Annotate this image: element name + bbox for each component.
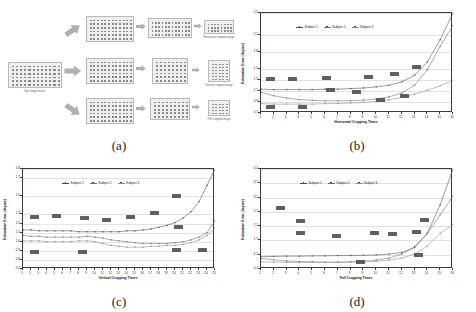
matrix-dot xyxy=(226,76,228,78)
series-marker xyxy=(198,239,199,240)
matrix-dot xyxy=(93,113,95,115)
y-axis-title: Estimation Error (degree) xyxy=(241,199,245,240)
matrix-dot xyxy=(172,76,174,78)
matrix-dot xyxy=(28,84,30,86)
matrix-dot xyxy=(126,34,128,36)
matrix-dot xyxy=(123,31,125,33)
data-value-annotation xyxy=(356,260,365,264)
x-tick-label: 15 xyxy=(130,271,138,275)
matrix-dot xyxy=(174,112,176,114)
matrix-dot xyxy=(108,27,110,29)
series-marker xyxy=(312,255,313,256)
series-marker xyxy=(150,243,151,244)
x-tick-label: 10 xyxy=(371,115,379,119)
matrix-dot xyxy=(130,120,132,122)
matrix-dot xyxy=(58,84,60,86)
series-marker xyxy=(198,237,199,238)
matrix-dot xyxy=(115,34,117,36)
matrix-dot xyxy=(215,70,217,72)
matrix-dot xyxy=(93,65,95,67)
matrix-dot xyxy=(170,105,172,107)
matrix-dot xyxy=(108,65,110,67)
panel-d: 0.71.21.72.22.73.23.74.21234567891011121… xyxy=(238,156,476,312)
matrix-dot xyxy=(126,109,128,111)
series-marker xyxy=(214,227,215,228)
matrix-dot xyxy=(162,102,164,104)
data-value-annotation xyxy=(102,218,111,222)
series-marker xyxy=(190,239,191,240)
matrix-dot xyxy=(37,84,39,86)
matrix-dot xyxy=(104,116,106,118)
y-tick-mark xyxy=(20,195,22,196)
data-value-annotation xyxy=(364,75,373,79)
data-value-annotation xyxy=(326,88,335,92)
x-tick-label: 14 xyxy=(422,271,430,275)
matrix-dot xyxy=(162,30,164,32)
matrix-dot xyxy=(112,27,114,29)
vertical-stage2-matrix xyxy=(152,58,188,84)
matrix-dot xyxy=(108,31,110,33)
matrix-dot xyxy=(49,80,51,82)
matrix-dot xyxy=(168,65,170,67)
matrix-dot xyxy=(172,73,174,75)
x-tick-label: 21 xyxy=(178,271,186,275)
x-tick-label: 16 xyxy=(138,271,146,275)
series-marker xyxy=(166,243,167,244)
series-marker xyxy=(182,241,183,242)
matrix-dot xyxy=(123,20,125,22)
matrix-dot xyxy=(226,73,228,75)
matrix-dot xyxy=(230,30,232,32)
matrix-dot xyxy=(115,120,117,122)
matrix-dot xyxy=(119,80,121,82)
matrix-dot xyxy=(219,110,221,112)
matrix-dot xyxy=(158,30,160,32)
legend-label: Subject 2 xyxy=(98,181,111,185)
y-tick-label: 4.2 xyxy=(246,166,258,170)
matrix-dot xyxy=(20,84,22,86)
matrix-dot xyxy=(101,34,103,36)
matrix-dot xyxy=(93,76,95,78)
matrix-dot xyxy=(123,69,125,71)
series-marker xyxy=(70,237,71,238)
matrix-dot xyxy=(90,76,92,78)
x-tick-label: 2 xyxy=(269,271,277,275)
matrix-dot xyxy=(222,79,224,81)
matrix-dot xyxy=(16,73,18,75)
x-tick-label: 14 xyxy=(422,115,430,119)
matrix-dot xyxy=(101,120,103,122)
matrix-dot xyxy=(176,76,178,78)
y-tick-label: 1.2 xyxy=(8,221,20,225)
x-tick-label: 8 xyxy=(74,271,82,275)
matrix-dot xyxy=(170,112,172,114)
matrix-dot xyxy=(212,76,214,78)
matrix-dot xyxy=(115,23,117,25)
series-marker xyxy=(126,230,127,231)
matrix-dot xyxy=(123,23,125,25)
matrix-dot xyxy=(219,104,221,106)
series-line-3 xyxy=(261,225,453,263)
matrix-dot xyxy=(97,20,99,22)
matrix-dot xyxy=(176,80,178,82)
matrix-dot xyxy=(168,69,170,71)
matrix-dot xyxy=(175,26,177,28)
matrix-dot xyxy=(222,110,224,112)
series-marker xyxy=(427,61,428,62)
series-marker xyxy=(401,254,402,255)
y-tick-label: 1.5 xyxy=(8,193,20,197)
matrix-dot xyxy=(104,23,106,25)
matrix-dot xyxy=(158,102,160,104)
matrix-dot xyxy=(126,113,128,115)
matrix-dot xyxy=(53,84,55,86)
x-tick-label: 19 xyxy=(162,271,170,275)
x-axis-title: Horizontal Cropping Times xyxy=(260,120,452,124)
legend-item-1: Subject 1 xyxy=(296,25,318,29)
matrix-dot xyxy=(154,102,156,104)
matrix-dot xyxy=(24,77,26,79)
x-tick-label: 7 xyxy=(333,115,341,119)
matrix-dot xyxy=(101,73,103,75)
legend-item-3: Subject 3 xyxy=(118,181,140,185)
matrix-dot xyxy=(224,27,226,29)
series-marker xyxy=(286,256,287,257)
chart-legend: Subject 1Subject 2Subject 3 xyxy=(296,25,373,29)
matrix-dot xyxy=(112,76,114,78)
